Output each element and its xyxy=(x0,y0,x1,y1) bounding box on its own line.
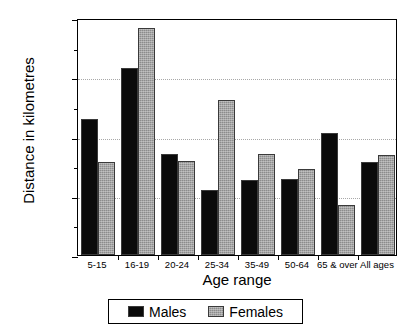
x-axis-category-label: 50-64 xyxy=(277,259,317,270)
legend-label-females: Females xyxy=(229,304,283,320)
bar-males-16-19[interactable] xyxy=(121,68,138,255)
bar-group xyxy=(238,20,278,255)
legend-swatch-males xyxy=(128,306,144,317)
bar-group xyxy=(118,20,158,255)
bar-males-25-34[interactable] xyxy=(201,190,218,255)
legend-entry-males: Males xyxy=(128,304,186,320)
bar-group xyxy=(158,20,198,255)
legend-label-males: Males xyxy=(149,304,186,320)
x-axis-category-label: 16-19 xyxy=(117,259,157,270)
x-axis-title: Age range xyxy=(77,271,397,288)
bar-females-5-15[interactable] xyxy=(98,162,115,255)
y-axis-title: Distance in kilometres xyxy=(20,11,37,251)
bar-group xyxy=(198,20,238,255)
x-axis-category-label: 35-49 xyxy=(237,259,277,270)
bar-females-35-49[interactable] xyxy=(258,154,275,255)
bar-group xyxy=(278,20,318,255)
bar-group xyxy=(78,20,118,255)
chart-legend: Males Females xyxy=(108,299,303,324)
bar-females-16-19[interactable] xyxy=(138,28,155,255)
x-axis-category-label: 20-24 xyxy=(157,259,197,270)
bar-males-20-24[interactable] xyxy=(161,154,178,255)
x-axis-category-label: 25-34 xyxy=(197,259,237,270)
bar-males-65-&-over[interactable] xyxy=(321,133,338,255)
bar-group xyxy=(318,20,358,255)
bar-chart-figure: Distance in kilometres 0500100015002000 … xyxy=(0,0,410,336)
bar-females-20-24[interactable] xyxy=(178,161,195,255)
x-axis-category-label: 5-15 xyxy=(77,259,117,270)
legend-entry-females: Females xyxy=(208,304,283,320)
bar-males-5-15[interactable] xyxy=(81,119,98,255)
x-axis-category-label: All ages xyxy=(357,259,397,270)
bar-females-65-&-over[interactable] xyxy=(338,205,355,255)
x-axis-category-label: 65 & over xyxy=(317,259,357,270)
bar-females-25-34[interactable] xyxy=(218,100,235,255)
bar-females-all-ages[interactable] xyxy=(378,155,395,255)
bar-group xyxy=(358,20,398,255)
bar-males-35-49[interactable] xyxy=(241,180,258,255)
plot-area: 0500100015002000 xyxy=(77,19,397,256)
bar-males-50-64[interactable] xyxy=(281,179,298,255)
y-axis-tick-0 xyxy=(72,257,78,258)
bar-males-all-ages[interactable] xyxy=(361,162,378,255)
legend-swatch-females xyxy=(208,306,224,317)
bar-females-50-64[interactable] xyxy=(298,169,315,256)
